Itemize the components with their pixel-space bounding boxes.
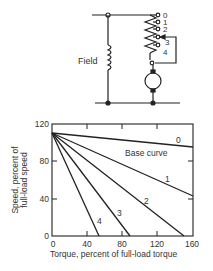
- figure: Field 0 1 2 3 4 0 Base curve 1 2: [0, 0, 213, 271]
- y-axis-label-line2: full-load speed: [19, 152, 29, 208]
- xtick-120: 120: [150, 239, 164, 249]
- base-curve-annotation: Base curve: [125, 148, 168, 158]
- ytick-40: 40: [40, 194, 50, 204]
- ytick-0: 0: [44, 231, 49, 241]
- resistor-icon: [145, 15, 156, 53]
- curve-label-3: 3: [117, 208, 122, 218]
- tap-2: [156, 27, 160, 31]
- x-axis-label: Torque, percent of full-load torque: [50, 249, 177, 259]
- tap-label-4: 4: [163, 48, 168, 57]
- tap-label-3: 3: [165, 38, 170, 47]
- motor-armature-icon: [145, 73, 161, 89]
- tap-0: [156, 13, 160, 17]
- tap-1: [156, 20, 160, 24]
- field-label: Field: [78, 56, 98, 66]
- xtick-160: 160: [185, 239, 199, 249]
- tap-label-2: 2: [163, 25, 168, 34]
- xtick-0: 0: [51, 239, 56, 249]
- ytick-120: 120: [35, 119, 49, 129]
- ytick-80: 80: [40, 156, 50, 166]
- tap-4: [156, 43, 160, 47]
- xtick-40: 40: [82, 239, 92, 249]
- curve-label-4: 4: [97, 216, 102, 226]
- xtick-80: 80: [117, 239, 127, 249]
- curve-1: [52, 133, 193, 196]
- curve-label-1: 1: [165, 174, 170, 184]
- speed-torque-chart: 0 Base curve 1 2 3 4 120 80 40 0 0 40 80…: [10, 119, 199, 259]
- curve-4: [52, 133, 99, 236]
- curve-0: [52, 133, 193, 147]
- curve-label-2: 2: [144, 196, 149, 206]
- field-coil-icon: [108, 45, 111, 70]
- curve-label-0: 0: [176, 135, 181, 145]
